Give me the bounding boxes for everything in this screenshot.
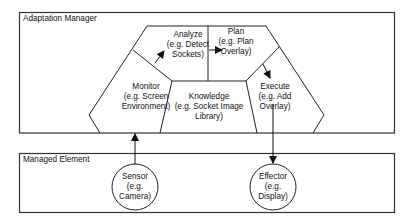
execute-example-2: Overlay) — [248, 102, 302, 112]
effector-example: (e.g. — [248, 182, 298, 192]
execute-label: Execute (e.g. Add Overlay) — [248, 82, 302, 112]
adaptation-manager-title: Adaptation Manager — [23, 14, 97, 23]
plan-example: (e.g. Plan — [208, 37, 264, 47]
effector-label: Effector (e.g. Display) — [248, 172, 298, 202]
sensor-label: Sensor (e.g. Camera) — [110, 172, 160, 202]
monitor-label: Monitor (e.g. Screen Environment) — [114, 82, 178, 112]
sensor-name: Sensor — [110, 172, 160, 182]
knowledge-example: (e.g. Socket Image — [170, 102, 248, 112]
monitor-example: (e.g. Screen — [114, 92, 178, 102]
execute-name: Execute — [248, 82, 302, 92]
plan-name: Plan — [208, 27, 264, 37]
knowledge-label: Knowledge (e.g. Socket Image Library) — [170, 92, 248, 122]
effector-example-2: Display) — [248, 192, 298, 202]
monitor-name: Monitor — [114, 82, 178, 92]
arrow-plan-to-execute — [263, 64, 270, 78]
plan-example-2: Overlay) — [208, 47, 264, 57]
managed-element-title: Managed Element — [23, 155, 89, 164]
monitor-example-2: Environment) — [114, 102, 178, 112]
sensor-example: (e.g. — [110, 182, 160, 192]
effector-name: Effector — [248, 172, 298, 182]
plan-label: Plan (e.g. Plan Overlay) — [208, 27, 264, 57]
sensor-example-2: Camera) — [110, 192, 160, 202]
execute-example: (e.g. Add — [248, 92, 302, 102]
knowledge-name: Knowledge — [170, 92, 248, 102]
knowledge-example-2: Library) — [170, 112, 248, 122]
